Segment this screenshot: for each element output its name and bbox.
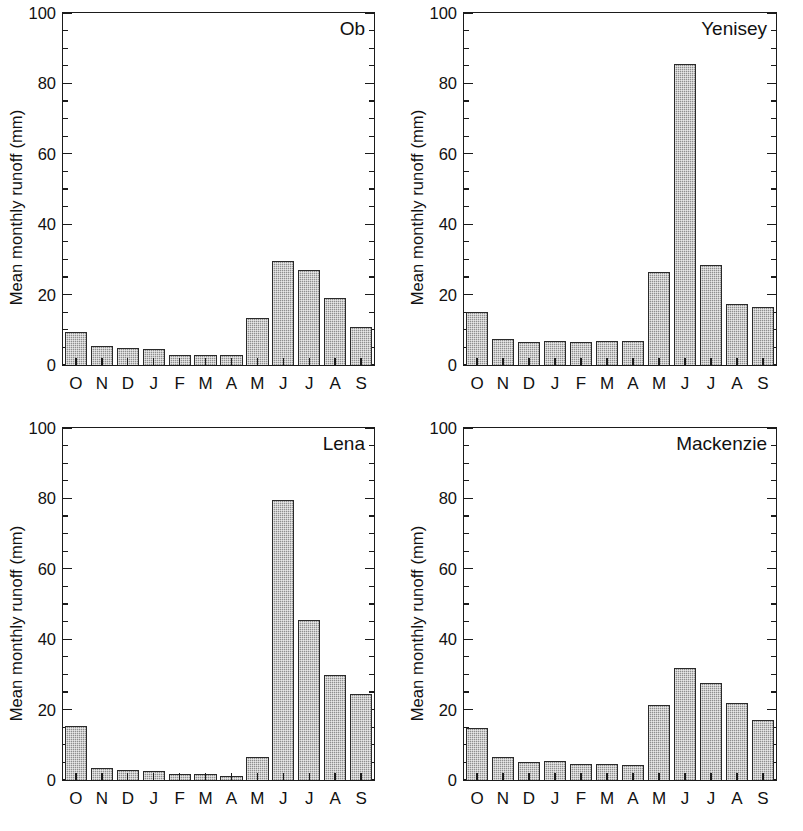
plot-area: Lena020406080100ONDJFMAMJJAS — [62, 427, 375, 781]
bar-slot: F — [167, 428, 193, 780]
y-tick-label: 20 — [439, 700, 457, 719]
x-tick-label: M — [198, 374, 212, 394]
y-axis-title: Mean monthly runoff (mm) — [403, 415, 433, 831]
chart-panel-lena: Mean monthly runoff (mm)Lena020406080100… — [0, 415, 401, 831]
x-tick — [205, 358, 206, 365]
bar-slot: S — [348, 13, 374, 365]
x-tick-label: A — [330, 374, 341, 394]
x-tick — [153, 358, 154, 365]
x-tick — [710, 773, 711, 780]
x-tick — [127, 773, 128, 780]
x-tick — [360, 773, 361, 780]
bar-slot: J — [296, 13, 322, 365]
x-tick — [334, 358, 335, 365]
x-tick — [658, 358, 659, 365]
y-tick-label: 100 — [28, 419, 56, 438]
bar — [648, 705, 670, 780]
x-tick-label: O — [69, 374, 82, 394]
y-tick-label: 0 — [448, 771, 457, 790]
bar-slot: S — [348, 428, 374, 780]
bar-slot: F — [568, 428, 594, 780]
bar-slot: D — [115, 428, 141, 780]
bar — [674, 668, 696, 780]
y-tick-label: 40 — [38, 630, 56, 649]
y-tick-label: 40 — [439, 630, 457, 649]
x-tick — [710, 358, 711, 365]
x-tick-label: A — [731, 374, 742, 394]
x-tick — [75, 358, 76, 365]
bar-slot: M — [244, 428, 270, 780]
bar-slot: A — [322, 13, 348, 365]
bar-series: ONDJFMAMJJAS — [464, 13, 776, 365]
bar — [350, 694, 372, 780]
bar-series: ONDJFMAMJJAS — [464, 428, 776, 780]
x-tick-label: M — [600, 789, 614, 809]
bar-slot: J — [141, 13, 167, 365]
y-axis-title: Mean monthly runoff (mm) — [2, 415, 32, 831]
bar-slot: A — [219, 13, 245, 365]
bar-slot: J — [672, 13, 698, 365]
x-tick — [736, 358, 737, 365]
bar — [298, 620, 320, 780]
y-tick-label: 80 — [38, 489, 56, 508]
x-tick — [632, 358, 633, 365]
bar-slot: A — [724, 13, 750, 365]
x-tick-label: O — [470, 374, 483, 394]
y-tick-label: 100 — [429, 419, 457, 438]
x-tick — [360, 358, 361, 365]
x-tick — [632, 773, 633, 780]
bar-slot: D — [516, 13, 542, 365]
bar-slot: O — [63, 428, 89, 780]
x-tick-label: F — [174, 374, 184, 394]
bar-slot: J — [542, 428, 568, 780]
x-tick — [309, 358, 310, 365]
bar-slot: F — [167, 13, 193, 365]
y-axis-title-text: Mean monthly runoff (mm) — [8, 525, 27, 721]
bar-slot: S — [750, 13, 776, 365]
x-tick — [528, 773, 529, 780]
x-tick — [554, 358, 555, 365]
y-axis-title-text: Mean monthly runoff (mm) — [409, 110, 428, 306]
x-tick — [334, 773, 335, 780]
x-tick — [231, 358, 232, 365]
bar-slot: S — [750, 428, 776, 780]
bar-slot: O — [464, 13, 490, 365]
x-tick-label: M — [652, 789, 666, 809]
bar-slot: N — [89, 428, 115, 780]
y-tick-label: 100 — [429, 4, 457, 23]
x-tick-label: A — [627, 789, 638, 809]
y-tick-label: 100 — [28, 4, 56, 23]
bar — [674, 64, 696, 365]
x-tick-label: J — [149, 789, 158, 809]
bar-slot: M — [193, 428, 219, 780]
x-tick — [528, 358, 529, 365]
bar-slot: J — [698, 428, 724, 780]
x-tick-label: J — [681, 374, 690, 394]
y-tick-label: 0 — [47, 771, 56, 790]
bar — [726, 703, 748, 780]
x-tick-label: S — [757, 789, 768, 809]
x-tick — [606, 773, 607, 780]
bar-slot: A — [620, 428, 646, 780]
bar-slot: J — [542, 13, 568, 365]
x-tick-label: J — [681, 789, 690, 809]
y-tick-label: 80 — [38, 74, 56, 93]
y-tick-label: 60 — [38, 144, 56, 163]
x-tick — [257, 773, 258, 780]
x-tick — [580, 358, 581, 365]
x-tick-label: A — [330, 789, 341, 809]
y-tick-label: 60 — [439, 559, 457, 578]
x-tick-label: J — [551, 789, 560, 809]
x-tick — [309, 773, 310, 780]
bar-slot: A — [219, 428, 245, 780]
bar-slot: J — [270, 428, 296, 780]
bar-slot: J — [141, 428, 167, 780]
y-tick-label: 20 — [439, 285, 457, 304]
plot-area: Yenisey020406080100ONDJFMAMJJAS — [463, 12, 777, 366]
bar-slot: D — [115, 13, 141, 365]
x-tick — [658, 773, 659, 780]
bar-slot: M — [594, 13, 620, 365]
x-tick-label: F — [174, 789, 184, 809]
y-axis-title: Mean monthly runoff (mm) — [2, 0, 32, 415]
x-tick-label: N — [96, 374, 108, 394]
